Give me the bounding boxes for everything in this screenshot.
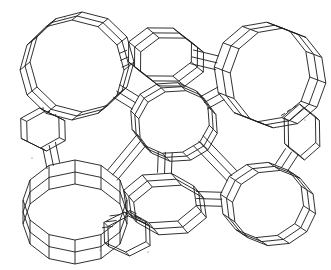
- cage-edge-link: [171, 173, 176, 179]
- ring-edge-link: [301, 228, 307, 232]
- ring-edge-link: [187, 156, 191, 160]
- ring-edge-link: [144, 98, 148, 102]
- cage-connector-strut: [165, 152, 166, 174]
- ring-layer: [25, 16, 129, 116]
- ring-layer: [222, 25, 318, 125]
- cage-edge-link: [178, 221, 183, 227]
- cage-edge-link: [147, 181, 152, 187]
- ring-edge-link: [310, 210, 316, 214]
- ring-edge-link: [275, 25, 283, 28]
- cage-edge-link: [183, 227, 188, 233]
- cage-edge-link: [315, 117, 319, 121]
- ring-edge-link: [227, 198, 233, 202]
- scan-specks: [31, 17, 305, 252]
- ring-edge-link: [267, 22, 275, 25]
- ring-edge-link: [223, 43, 231, 46]
- cage-connector-strut: [287, 155, 298, 172]
- cage-connector-strut: [196, 192, 222, 193]
- ring-edge-link: [140, 94, 144, 98]
- ring-edge-link: [318, 80, 326, 83]
- cage-connector-strut: [198, 141, 232, 176]
- ring-edge-link: [27, 91, 32, 95]
- scan-speck: [304, 119, 305, 120]
- cage-connector-strut: [192, 57, 218, 63]
- left-middle-cage: [21, 108, 66, 151]
- ring-edge-link: [221, 194, 227, 198]
- ring-edge-link: [283, 239, 289, 243]
- ring-edge-link: [51, 105, 56, 109]
- cage-edge-link: [153, 33, 159, 38]
- ring-layer: [221, 162, 304, 237]
- cage-connector-strut: [124, 199, 125, 200]
- cage-edge-link: [300, 156, 304, 160]
- ring-edge-link: [301, 101, 309, 104]
- ring-edge-link: [309, 104, 317, 107]
- cage-edge-link: [135, 47, 141, 52]
- cage-connector-strut: [124, 206, 125, 207]
- cage-edge-link: [142, 175, 147, 181]
- cage-connector-strut: [203, 136, 237, 171]
- ring-layer: [233, 170, 316, 245]
- cage-edge-link: [21, 138, 27, 141]
- cage-edge-link: [173, 28, 179, 33]
- cage-connector-strut: [158, 151, 159, 173]
- cage-connector-strut: [207, 100, 224, 110]
- cage-connector-strut: [201, 87, 218, 96]
- cage-connector-strut: [281, 152, 292, 169]
- ring-edge-link: [310, 77, 318, 80]
- ring-layer: [227, 166, 310, 241]
- cage-connector-strut: [108, 135, 137, 170]
- cage-connector-strut: [112, 140, 141, 175]
- ring-edge-link: [242, 26, 250, 29]
- right-middle-cage: [284, 104, 320, 160]
- cage-connector-strut: [193, 50, 219, 56]
- framework-rings: [20, 12, 326, 264]
- ring-edge-link: [161, 88, 165, 92]
- cage-edge-link: [176, 179, 181, 185]
- cage-edge-link: [197, 67, 203, 72]
- ring-edge-link: [247, 165, 253, 169]
- cage-connector-strut: [124, 192, 125, 193]
- cage-edge-link: [146, 242, 150, 246]
- cage-edge-link: [300, 104, 304, 108]
- ring-edge-link: [253, 169, 259, 173]
- scan-speck: [31, 157, 32, 158]
- lower-left-12-ring: [23, 160, 127, 264]
- cage-edge-link: [285, 144, 289, 148]
- ring-edge-link: [32, 87, 37, 91]
- cage-edge-link: [21, 118, 27, 121]
- cage-edge-link: [179, 33, 185, 38]
- cage-connector-strut: [196, 206, 222, 207]
- cage-connector-strut: [275, 148, 286, 165]
- ring-edge-link: [183, 152, 187, 156]
- scan-speck: [99, 249, 100, 250]
- cage-edge-link: [147, 28, 153, 33]
- scan-speck: [147, 251, 148, 252]
- scan-speck: [64, 17, 65, 18]
- ring-edge-link: [304, 206, 310, 210]
- cage-edge-link: [173, 76, 179, 81]
- upper-left-12-ring: [20, 12, 134, 120]
- ring-edge-link: [295, 224, 301, 228]
- lower-right-12-ring: [221, 162, 316, 245]
- ring-edge-link: [235, 180, 241, 184]
- cage-edge-link: [135, 67, 141, 72]
- ring-edge-link: [103, 19, 108, 23]
- ring-edge-link: [117, 41, 122, 45]
- ring-edge-link: [231, 46, 239, 49]
- cage-layer: [141, 38, 204, 86]
- cage-edge-link: [104, 222, 108, 226]
- ring-edge-link: [277, 235, 283, 239]
- ring-edge-link: [265, 125, 273, 128]
- ring-edge-link: [200, 142, 204, 146]
- cage-edge-link: [316, 143, 320, 147]
- cage-connector-strut: [171, 153, 172, 175]
- cage-edge-link: [59, 138, 65, 141]
- cage-connector-strut: [194, 146, 228, 181]
- ring-edge-link: [222, 70, 230, 73]
- ring-edge-link: [290, 121, 298, 124]
- zeolite-framework-figure: [0, 0, 331, 270]
- cage-connector-strut: [204, 93, 221, 103]
- lower-middle-cage: [124, 173, 207, 235]
- ring-edge-link: [250, 29, 258, 32]
